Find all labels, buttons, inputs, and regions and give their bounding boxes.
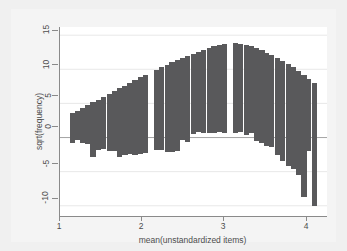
rootogram-bar [107,94,112,151]
y-axis-title-wrap: sqrt(frequency) [33,27,45,216]
y-tick-0 [52,126,58,127]
rootogram-bar [175,60,180,151]
rootogram-bar [301,75,306,197]
rootogram-bar [96,100,101,150]
rootogram-bar [90,102,95,157]
rootogram-bar [196,52,201,132]
rootogram-bar [211,46,216,132]
rootogram-plot [60,27,327,216]
rootogram-bar [101,97,106,149]
rootogram-bar [244,45,249,135]
y-tick-label-0: 0 [11,122,51,131]
rootogram-bar [286,64,291,166]
y-tick-label-text: 5 [44,93,53,98]
rootogram-bar [112,91,117,151]
rootogram-bar [233,43,238,132]
plot-region [59,27,327,217]
rootogram-bar [191,54,196,135]
y-tick-15 [52,30,58,31]
rootogram-bar [138,77,143,153]
rootogram-bar [264,53,269,146]
y-tick-label-15: 15 [11,25,51,34]
rootogram-bar [132,80,137,154]
rootogram-bar [154,70,159,151]
y-tick-m10 [52,198,58,199]
rootogram-bar [70,113,75,142]
rootogram-bar [238,44,243,132]
rootogram-bar [207,48,212,133]
rootogram-bar [80,108,85,143]
rootogram-bar [259,50,264,142]
chart-screenshot: 15 10 5 0 -5 -10 sqrt(frequency) 1 2 3 4… [0,0,347,251]
y-tick-label-m10: -10 [11,193,51,202]
rootogram-bar [306,79,311,151]
rootogram-bar [280,61,285,161]
rootogram-bar [201,50,206,133]
rootogram-bar [122,86,127,156]
y-tick-m5 [52,163,58,164]
y-tick-label-10: 10 [11,60,51,69]
rootogram-bar [85,105,90,144]
y-tick-10 [52,64,58,65]
rootogram-bar [117,88,122,156]
rootogram-bar [217,45,222,132]
x-tick-label-3: 3 [211,221,235,231]
rootogram-bar [180,58,185,140]
rootogram-bar [169,62,174,151]
y-tick-5 [52,95,58,96]
y-tick-label-text: 0 [44,124,53,129]
y-tick-label-5: 5 [11,91,51,100]
x-axis-title: mean(unstandardized items) [59,235,326,245]
rootogram-bar [75,111,80,140]
rootogram-bar [159,67,164,150]
rootogram-bar [185,56,190,142]
rootogram-bar [127,83,132,154]
bar-series [70,43,318,205]
rootogram-bar [143,75,148,153]
x-tick-label-1: 1 [47,221,71,231]
rootogram-bar [165,65,170,152]
x-tick-label-4: 4 [294,221,318,231]
rootogram-bar [291,67,296,169]
rootogram-bar [275,58,280,156]
x-tick-label-2: 2 [129,221,153,231]
rootogram-bar [296,71,301,175]
rootogram-bar [222,44,227,133]
y-axis-title: sqrt(frequency) [34,27,44,216]
y-tick-label-m5: -5 [11,159,51,168]
rootogram-bar [312,83,317,206]
rootogram-bar [249,46,254,133]
rootogram-bar [254,48,259,141]
graph-region: 15 10 5 0 -5 -10 sqrt(frequency) 1 2 3 4… [11,9,336,242]
rootogram-bar [269,55,274,147]
